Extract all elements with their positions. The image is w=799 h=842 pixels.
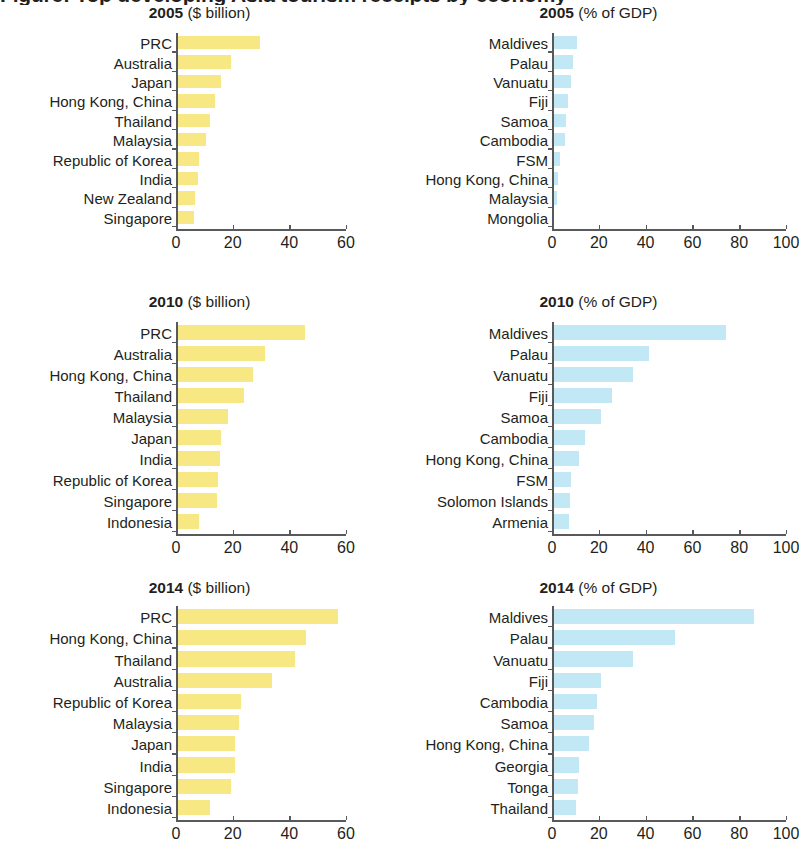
category-label: Vanuatu	[493, 653, 548, 668]
value-axis-tick-label: 40	[637, 826, 655, 842]
bar	[553, 673, 601, 688]
category-label: Tonga	[507, 780, 548, 795]
category-label: Samoa	[500, 716, 548, 731]
bar	[553, 800, 576, 815]
category-label: Thailand	[490, 801, 548, 816]
bar	[553, 736, 589, 751]
value-axis-tick-label: 60	[683, 826, 701, 842]
bar	[553, 694, 597, 709]
value-axis-tick	[552, 816, 553, 820]
value-axis-tick-label: 100	[773, 826, 799, 842]
category-label: Maldives	[489, 610, 548, 625]
value-axis-line	[552, 820, 786, 822]
category-label: Cambodia	[480, 695, 548, 710]
category-label: Hong Kong, China	[425, 737, 548, 752]
category-label: Palau	[510, 631, 548, 646]
value-axis-tick	[692, 816, 693, 820]
value-axis-tick-label: 20	[590, 826, 608, 842]
value-axis-tick-label: 0	[548, 826, 557, 842]
value-axis-tick	[646, 816, 647, 820]
bar	[553, 757, 579, 772]
bar	[553, 630, 675, 645]
panel-title-year: 2014	[539, 579, 573, 596]
category-axis-line	[552, 606, 554, 820]
category-label: Fiji	[529, 674, 548, 689]
category-label: Georgia	[495, 759, 548, 774]
value-axis-tick	[599, 816, 600, 820]
panel-title: 2014 (% of GDP)	[399, 578, 798, 597]
value-axis-tick	[739, 816, 740, 820]
bar	[553, 609, 754, 624]
value-axis-tick-label: 80	[730, 826, 748, 842]
bar	[553, 779, 578, 794]
bar	[553, 651, 633, 666]
panel-title-unit: (% of GDP)	[574, 579, 658, 596]
bar	[553, 715, 594, 730]
value-axis-tick	[786, 816, 787, 820]
